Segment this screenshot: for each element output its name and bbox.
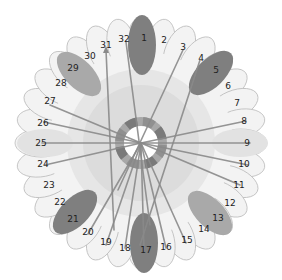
petal-label-1: 1 [141, 33, 147, 43]
petal-label-3: 3 [180, 42, 186, 52]
petal-label-21: 21 [67, 214, 78, 224]
petal-label-20: 20 [82, 227, 94, 237]
petal-label-7: 7 [234, 98, 240, 108]
petal-label-10: 10 [238, 159, 250, 169]
petal-label-14: 14 [198, 224, 210, 234]
oval-petal-1 [128, 15, 156, 75]
petal-label-11: 11 [233, 180, 244, 190]
petal-label-12: 12 [224, 198, 235, 208]
petal-label-29: 29 [67, 63, 79, 73]
petal-label-5: 5 [213, 65, 219, 75]
petal-label-18: 18 [119, 243, 131, 253]
petal-label-30: 30 [84, 51, 96, 61]
petal-label-22: 22 [54, 197, 65, 207]
petal-label-2: 2 [161, 35, 167, 45]
petal-label-4: 4 [198, 53, 204, 63]
petal-label-28: 28 [55, 78, 67, 88]
petal-label-26: 26 [37, 118, 49, 128]
petal-label-31: 31 [100, 40, 111, 50]
petal-label-16: 16 [160, 242, 172, 252]
petal-label-19: 19 [100, 237, 112, 247]
tooth-chart-diagram: 1234567891011121314151617181920212223242… [0, 0, 282, 280]
petal-label-17: 17 [140, 245, 151, 255]
petal-label-25: 25 [35, 138, 46, 148]
petal-label-8: 8 [241, 116, 247, 126]
petal-label-9: 9 [244, 138, 250, 148]
petal-label-15: 15 [181, 235, 192, 245]
petal-label-6: 6 [225, 81, 231, 91]
petal-label-32: 32 [118, 34, 129, 44]
petal-label-23: 23 [43, 180, 54, 190]
petal-label-24: 24 [37, 159, 49, 169]
petal-label-27: 27 [44, 96, 55, 106]
petal-label-13: 13 [212, 213, 223, 223]
